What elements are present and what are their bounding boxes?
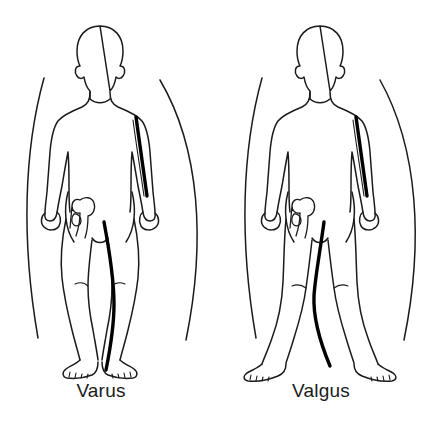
varus-valgus-illustration: Varus Valgus [0, 0, 441, 436]
label-varus: Varus [46, 380, 156, 402]
anatomy-line-drawing [0, 0, 441, 436]
label-valgus: Valgus [263, 380, 379, 402]
